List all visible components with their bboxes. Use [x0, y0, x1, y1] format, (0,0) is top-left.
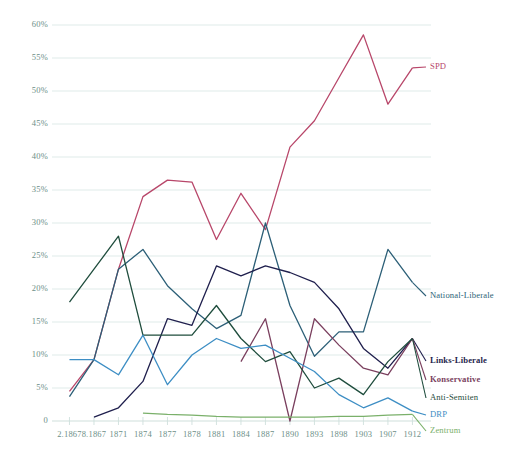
- series-line-drp: [69, 335, 412, 411]
- y-axis-tick-label: 45%: [14, 118, 48, 128]
- legend-connector-drp: [412, 411, 426, 415]
- series-lines-group: [69, 35, 412, 421]
- legend-connector-konservative: [412, 339, 426, 381]
- legend-connector-anti-semiten: [412, 339, 426, 399]
- legend-connectors-group: [412, 67, 426, 431]
- y-axis-tick-label: 40%: [14, 151, 48, 161]
- x-axis-tick-label: 1912: [392, 429, 432, 439]
- y-axis-tick-label: 20%: [14, 283, 48, 293]
- chart-container: 60%55%50%45%40%35%30%25%20%15%10%5%0 2.1…: [0, 0, 531, 468]
- legend-label-national-liberale[interactable]: National-Liberale: [430, 290, 494, 300]
- legend-label-zentrum[interactable]: Zentrum: [430, 425, 461, 435]
- y-axis-tick-label: 10%: [14, 349, 48, 359]
- y-axis-tick-label: 15%: [14, 316, 48, 326]
- y-axis-tick-label: 35%: [14, 184, 48, 194]
- legend-label-links-liberale[interactable]: Links-Liberale: [430, 355, 487, 365]
- legend-label-konservative[interactable]: Konservative: [430, 374, 481, 384]
- legend-connector-spd: [412, 67, 426, 68]
- y-axis-tick-label: 60%: [14, 19, 48, 29]
- legend-label-anti-semiten[interactable]: Anti-Semiten: [430, 392, 478, 402]
- series-line-zentrum: [143, 413, 412, 417]
- y-axis-tick-label: 55%: [14, 52, 48, 62]
- series-line-konservative: [241, 319, 412, 421]
- y-axis-tick-label: 50%: [14, 85, 48, 95]
- y-axis-tick-label: 30%: [14, 217, 48, 227]
- y-axis-tick-label: 0: [14, 415, 48, 425]
- legend-label-drp[interactable]: DRP: [430, 409, 447, 419]
- y-axis-tick-label: 25%: [14, 250, 48, 260]
- y-axis-tick-label: 5%: [14, 382, 48, 392]
- legend-label-spd[interactable]: SPD: [430, 61, 446, 71]
